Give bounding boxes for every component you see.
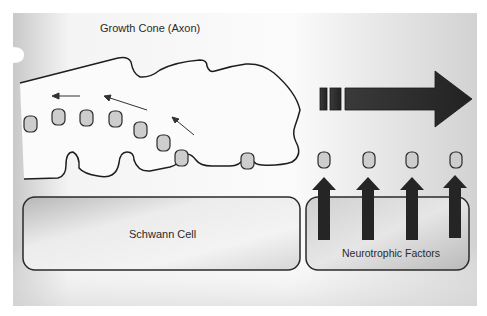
growth-cone-label: Growth Cone (Axon) — [100, 22, 200, 34]
neurotrophic-factors-label: Neurotrophic Factors — [342, 247, 440, 259]
schwann-cell-label: Schwann Cell — [129, 228, 196, 240]
diagram-canvas — [0, 0, 487, 316]
neurotrophic-factors-box — [306, 197, 469, 270]
diagram-panel — [13, 13, 477, 306]
